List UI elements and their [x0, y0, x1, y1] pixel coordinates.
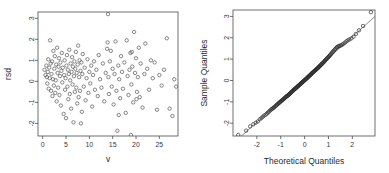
qq-plot-panel: -2-1012-2-10123Theoretical QuantilesSamp…	[195, 0, 389, 173]
data-point	[114, 40, 117, 43]
data-point	[93, 88, 96, 91]
data-point	[85, 77, 88, 80]
data-point	[127, 93, 130, 96]
data-point	[67, 98, 70, 101]
data-point	[123, 61, 126, 64]
data-point	[173, 78, 176, 81]
data-point	[57, 57, 60, 60]
data-point	[171, 114, 174, 117]
y-tick-label: -1	[29, 99, 36, 105]
data-point	[68, 48, 71, 51]
data-point	[101, 62, 104, 65]
data-point	[96, 94, 99, 97]
data-point	[155, 108, 158, 111]
data-point	[55, 46, 58, 49]
data-point	[162, 68, 165, 71]
data-point	[121, 87, 124, 90]
data-point	[151, 77, 154, 80]
data-point	[46, 82, 49, 85]
data-point	[46, 70, 49, 73]
data-point	[70, 70, 73, 73]
y-tick-label: -2	[224, 120, 231, 126]
y-tick-label: -1	[224, 99, 231, 105]
data-point	[55, 100, 58, 103]
y-tick-label: 1	[224, 57, 231, 61]
data-point	[77, 95, 80, 98]
data-point	[82, 85, 85, 88]
y-tick-label: 0	[29, 79, 36, 83]
data-point	[75, 86, 78, 89]
data-layer	[43, 12, 178, 136]
data-point	[59, 104, 62, 107]
data-point	[369, 10, 372, 13]
data-point	[81, 72, 84, 75]
data-point	[120, 70, 123, 73]
data-point	[76, 102, 79, 105]
data-point	[165, 37, 168, 40]
data-point	[43, 68, 46, 71]
data-layer	[233, 10, 375, 143]
data-point	[168, 107, 171, 110]
data-point	[65, 64, 68, 67]
data-point	[89, 82, 92, 85]
data-point	[113, 72, 116, 75]
data-point	[143, 72, 146, 75]
data-point	[100, 86, 103, 89]
x-tick-label: 20	[132, 141, 140, 148]
data-point	[109, 49, 112, 52]
data-point	[65, 53, 68, 56]
residual-scatter-panel: 0510152025-2-10123vrsd	[0, 0, 195, 173]
data-point	[58, 74, 61, 77]
data-point	[98, 78, 101, 81]
data-point	[174, 85, 177, 88]
data-point	[86, 58, 89, 61]
y-tick-label: 0	[224, 78, 231, 82]
data-point	[59, 61, 62, 64]
data-point	[75, 71, 78, 74]
data-point	[81, 52, 84, 55]
x-tick-label: 1	[327, 141, 331, 148]
data-point	[84, 99, 87, 102]
data-point	[149, 59, 152, 62]
data-point	[63, 88, 66, 91]
data-point	[91, 73, 94, 76]
x-tick-label: 25	[155, 141, 163, 148]
data-point	[76, 44, 79, 47]
data-point	[56, 86, 59, 89]
data-point	[110, 85, 113, 88]
data-point	[118, 96, 121, 99]
data-point	[106, 41, 109, 44]
y-tick-label: 3	[29, 16, 36, 20]
y-tick-label: 2	[29, 37, 36, 41]
data-point	[106, 12, 109, 15]
data-point	[61, 81, 64, 84]
data-point	[107, 75, 110, 78]
data-point	[56, 71, 59, 74]
data-point	[69, 107, 72, 110]
x-tick-label: -1	[278, 141, 284, 148]
data-point	[57, 65, 60, 68]
y-tick-label: 1	[29, 58, 36, 62]
data-point	[90, 64, 93, 67]
x-tick-label: -2	[254, 141, 260, 148]
data-point	[248, 125, 251, 128]
data-point	[69, 79, 72, 82]
data-point	[153, 61, 156, 64]
data-point	[128, 68, 131, 71]
data-point	[49, 89, 52, 92]
data-point	[90, 105, 93, 108]
data-point	[124, 111, 127, 114]
data-point	[158, 73, 161, 76]
data-point	[68, 92, 71, 95]
data-point	[72, 74, 75, 77]
data-point	[53, 54, 56, 57]
data-point	[53, 67, 56, 70]
data-point	[135, 98, 138, 101]
data-point	[83, 66, 86, 69]
data-point	[76, 63, 79, 66]
data-point	[108, 60, 111, 63]
y-axis-title: rsd	[3, 68, 13, 80]
data-point	[107, 92, 110, 95]
data-point	[104, 71, 107, 74]
residual-scatter-plot: 0510152025-2-10123vrsd	[0, 0, 195, 173]
